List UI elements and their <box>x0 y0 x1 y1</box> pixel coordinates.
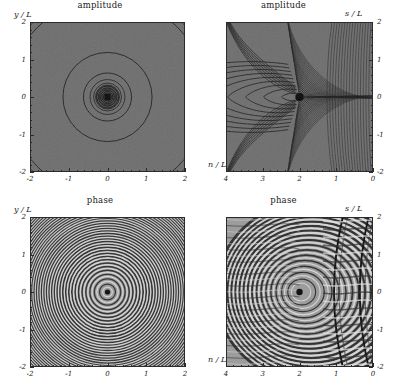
x-tick-label: -1 <box>60 175 78 183</box>
y-tick-label: 1 <box>377 251 393 259</box>
y-major-tick <box>369 292 373 293</box>
x-minor-tick <box>162 170 163 172</box>
x-tick-label: 0 <box>99 370 117 378</box>
y-minor-tick <box>371 240 373 241</box>
y-major-tick <box>369 22 373 23</box>
y-minor-tick <box>30 105 32 106</box>
x-minor-tick <box>92 170 93 172</box>
y-major-tick <box>30 97 34 98</box>
y-minor-tick <box>30 157 32 158</box>
x-minor-tick <box>307 170 308 172</box>
y-minor-tick <box>371 67 373 68</box>
y-minor-tick <box>30 67 32 68</box>
x-tick-label: -2 <box>21 370 39 378</box>
figure-root: amplitude y / L x / L -2-1012210-1-2 amp… <box>0 0 399 391</box>
x-minor-tick <box>84 365 85 367</box>
y-minor-tick <box>30 300 32 301</box>
x-minor-tick <box>177 365 178 367</box>
y-tick-label: 1 <box>377 56 393 64</box>
x-minor-tick <box>61 170 62 172</box>
y-minor-tick <box>371 232 373 233</box>
plot-area <box>226 217 373 367</box>
x-major-tick <box>185 168 186 172</box>
x-tick-label: 2 <box>291 370 309 378</box>
y-major-tick <box>30 135 34 136</box>
panel-title: amplitude <box>0 0 200 10</box>
y-minor-tick <box>30 262 32 263</box>
y-minor-tick <box>30 322 32 323</box>
y-minor-tick <box>371 150 373 151</box>
y-minor-tick <box>30 337 32 338</box>
y-minor-tick <box>371 315 373 316</box>
x-minor-tick <box>123 365 124 367</box>
y-major-tick <box>369 217 373 218</box>
x-tick-label: 2 <box>176 175 194 183</box>
x-minor-tick <box>38 170 39 172</box>
x-major-tick <box>263 168 264 172</box>
y-tick-label: 2 <box>10 213 26 221</box>
y-minor-tick <box>371 337 373 338</box>
x-minor-tick <box>358 170 359 172</box>
y-tick-label: 2 <box>377 18 393 26</box>
x-major-tick <box>226 168 227 172</box>
plot-area <box>30 217 185 367</box>
x-minor-tick <box>131 170 132 172</box>
x-major-tick <box>300 363 301 367</box>
x-major-tick <box>185 363 186 367</box>
x-tick-label: 2 <box>291 175 309 183</box>
x-tick-label: 2 <box>176 370 194 378</box>
y-minor-tick <box>371 165 373 166</box>
x-minor-tick <box>233 365 234 367</box>
x-minor-tick <box>100 365 101 367</box>
x-minor-tick <box>351 170 352 172</box>
plot-area <box>226 22 373 172</box>
x-minor-tick <box>248 170 249 172</box>
y-minor-tick <box>30 37 32 38</box>
x-major-tick <box>263 363 264 367</box>
y-tick-label: -1 <box>377 131 393 139</box>
x-minor-tick <box>46 170 47 172</box>
x-minor-tick <box>84 170 85 172</box>
y-minor-tick <box>30 307 32 308</box>
x-minor-tick <box>351 365 352 367</box>
x-major-tick <box>226 363 227 367</box>
x-minor-tick <box>177 170 178 172</box>
y-minor-tick <box>30 82 32 83</box>
y-minor-tick <box>371 247 373 248</box>
y-axis-label: s / L <box>345 9 362 18</box>
x-minor-tick <box>131 365 132 367</box>
y-minor-tick <box>371 45 373 46</box>
x-minor-tick <box>255 365 256 367</box>
x-axis-label: n / L <box>208 160 226 169</box>
x-minor-tick <box>314 365 315 367</box>
y-minor-tick <box>371 52 373 53</box>
x-minor-tick <box>38 365 39 367</box>
x-axis-label: n / L <box>208 355 226 364</box>
x-minor-tick <box>92 365 93 367</box>
x-minor-tick <box>255 170 256 172</box>
panel-amplitude-cartesian: amplitude y / L x / L -2-1012210-1-2 <box>0 0 200 196</box>
x-minor-tick <box>154 365 155 367</box>
y-tick-label: -2 <box>10 363 26 371</box>
y-tick-label: -2 <box>10 168 26 176</box>
x-minor-tick <box>53 170 54 172</box>
x-tick-label: 1 <box>327 370 345 378</box>
y-minor-tick <box>30 225 32 226</box>
y-minor-tick <box>30 120 32 121</box>
x-major-tick <box>300 168 301 172</box>
y-major-tick <box>30 330 34 331</box>
y-tick-label: -1 <box>10 326 26 334</box>
x-tick-label: 3 <box>254 175 272 183</box>
x-minor-tick <box>358 365 359 367</box>
x-minor-tick <box>162 365 163 367</box>
x-major-tick <box>69 363 70 367</box>
y-minor-tick <box>371 30 373 31</box>
x-minor-tick <box>77 365 78 367</box>
y-major-tick <box>30 367 34 368</box>
y-minor-tick <box>30 150 32 151</box>
panel-phase-cartesian: phase y / L x / L -2-1012210-1-2 <box>0 195 200 391</box>
y-major-tick <box>30 217 34 218</box>
y-minor-tick <box>371 37 373 38</box>
y-minor-tick <box>30 165 32 166</box>
y-major-tick <box>30 60 34 61</box>
